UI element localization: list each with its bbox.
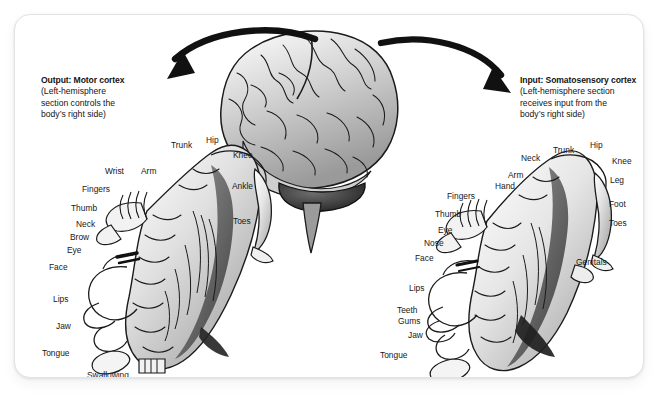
motor-label-hip: Hip xyxy=(206,136,219,145)
callout-motor-line3: body’s right side) xyxy=(41,109,124,120)
somatosensory-label-trunk: Trunk xyxy=(553,146,574,155)
callout-somatosensory-cortex: Input: Somatosensory cortex (Left-hemisp… xyxy=(520,75,636,121)
somatosensory-label-neck: Neck xyxy=(521,154,540,163)
callout-somatosensory-line3: body’s right side) xyxy=(520,109,636,120)
somatosensory-label-fingers: Fingers xyxy=(447,192,475,201)
somatosensory-label-foot: Foot xyxy=(609,200,626,209)
motor-label-wrist: Wrist xyxy=(105,167,124,176)
figure-card: Output: Motor cortex (Left-hemisphere se… xyxy=(14,14,644,378)
motor-label-neck: Neck xyxy=(76,220,95,229)
motor-label-arm: Arm xyxy=(141,167,156,176)
motor-label-tongue: Tongue xyxy=(42,349,69,358)
somatosensory-label-nose: Nose xyxy=(424,239,444,248)
somatosensory-label-thumb: Thumb xyxy=(435,210,461,219)
somatosensory-label-gums: Gums xyxy=(398,317,420,326)
motor-label-fingers: Fingers xyxy=(82,185,110,194)
motor-homunculus-illustration xyxy=(84,145,273,374)
motor-label-knee: Knee xyxy=(233,151,253,160)
somatosensory-label-teeth: Teeth xyxy=(397,306,418,315)
somatosensory-label-leg: Leg xyxy=(610,176,624,185)
motor-label-trunk: Trunk xyxy=(171,141,192,150)
somatosensory-label-lips: Lips xyxy=(409,284,424,293)
motor-label-brow: Brow xyxy=(70,233,89,242)
somatosensory-label-jaw: Jaw xyxy=(408,331,423,340)
callout-somatosensory-title: Input: Somatosensory cortex xyxy=(520,75,636,86)
motor-label-ankle: Ankle xyxy=(232,182,253,191)
motor-label-jaw: Jaw xyxy=(56,322,71,331)
somatosensory-label-hand: Hand xyxy=(495,182,515,191)
somatosensory-label-toes: Toes xyxy=(609,219,627,228)
somatosensory-label-eye: Eye xyxy=(438,226,452,235)
callout-motor-cortex: Output: Motor cortex (Left-hemisphere se… xyxy=(41,75,124,121)
diagram-artwork xyxy=(15,15,643,377)
motor-label-eye: Eye xyxy=(67,246,81,255)
somatosensory-label-face: Face xyxy=(415,254,434,263)
figure-page: Output: Motor cortex (Left-hemisphere se… xyxy=(0,0,669,401)
callout-somatosensory-line2: receives input from the xyxy=(520,98,636,109)
curved-arrow-to-somatosensory-callout xyxy=(381,40,511,93)
motor-label-thumb: Thumb xyxy=(71,204,97,213)
callout-motor-line1: (Left-hemisphere xyxy=(41,86,124,97)
figure-canvas: Output: Motor cortex (Left-hemisphere se… xyxy=(15,15,643,377)
somatosensory-label-hip: Hip xyxy=(590,141,603,150)
somatosensory-label-tongue: Tongue xyxy=(380,351,407,360)
callout-motor-title: Output: Motor cortex xyxy=(41,75,124,86)
callout-motor-line2: section controls the xyxy=(41,98,124,109)
callout-somatosensory-line1: (Left-hemisphere section xyxy=(520,86,636,97)
motor-label-face: Face xyxy=(49,263,68,272)
motor-label-swallowing: Swallowing xyxy=(87,371,129,378)
motor-label-lips: Lips xyxy=(53,295,68,304)
somatosensory-label-genitals: Genitals xyxy=(576,258,607,267)
cropped-top-text xyxy=(500,0,640,4)
somatosensory-label-arm: Arm xyxy=(508,171,523,180)
somatosensory-label-knee: Knee xyxy=(612,157,632,166)
motor-label-toes: Toes xyxy=(233,217,251,226)
